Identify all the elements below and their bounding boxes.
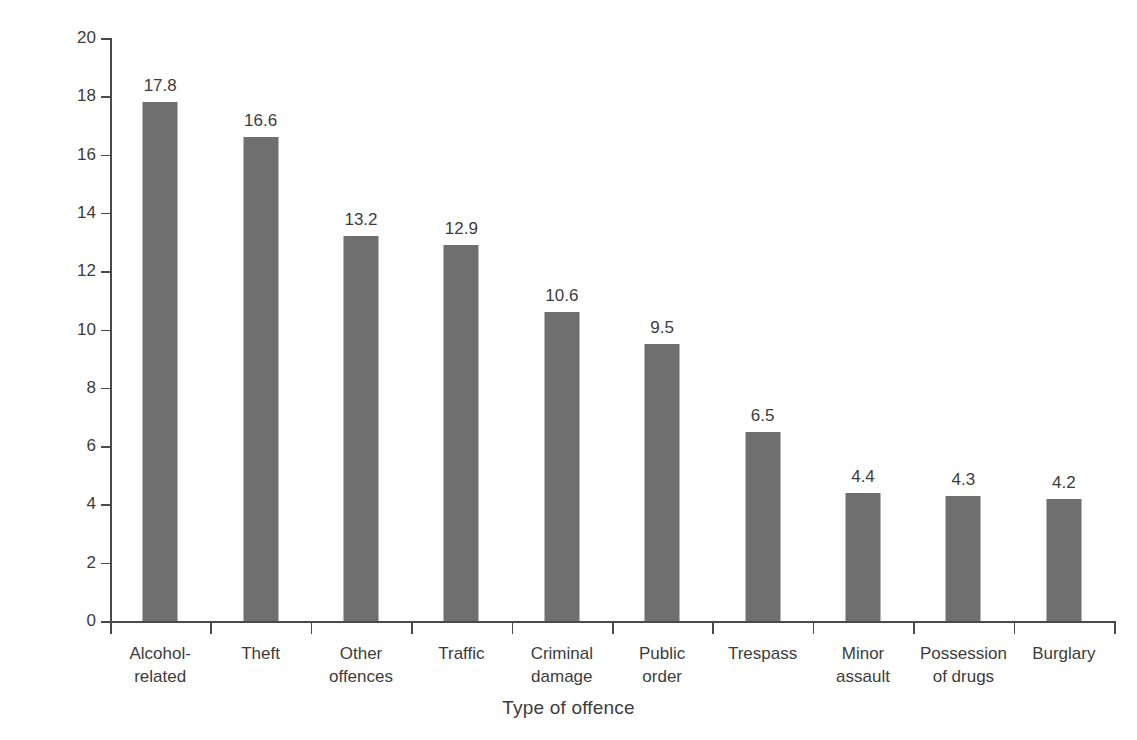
x-axis-tick: [1114, 621, 1116, 634]
bar-value-label: 12.9: [445, 219, 478, 239]
x-axis-tick: [813, 621, 815, 634]
bar-value-label: 9.5: [650, 318, 674, 338]
y-axis-tick: [101, 330, 110, 332]
y-axis-tick-label: 12: [50, 261, 96, 281]
y-axis-tick-label: 2: [50, 553, 96, 573]
x-axis-tick: [1014, 621, 1016, 634]
bar-value-label: 17.8: [144, 76, 177, 96]
x-axis-tick: [311, 621, 313, 634]
bar-value-label: 13.2: [344, 210, 377, 230]
y-axis-tick: [101, 213, 110, 215]
y-axis-tick-label: 16: [50, 145, 96, 165]
y-axis-tick: [101, 621, 110, 623]
x-axis-tick: [411, 621, 413, 634]
y-axis-tick-labels: 02468101214161820: [50, 38, 96, 621]
y-axis-tick: [101, 38, 110, 40]
bar: [846, 493, 881, 621]
bar-value-label: 4.3: [952, 470, 976, 490]
y-axis-title: % of referrals: [0, 0, 40, 740]
x-axis-tick: [512, 621, 514, 634]
y-axis-tick-label: 14: [50, 203, 96, 223]
y-axis-tick: [101, 155, 110, 157]
x-axis-tick: [612, 621, 614, 634]
x-axis-tick: [110, 621, 112, 634]
y-axis-tick-label: 20: [50, 28, 96, 48]
bar: [243, 137, 278, 621]
y-axis-tick: [101, 388, 110, 390]
y-axis-tick-label: 6: [50, 436, 96, 456]
bar: [946, 496, 981, 621]
bar: [1046, 499, 1081, 621]
bar-value-label: 4.2: [1052, 473, 1076, 493]
x-axis-tick: [913, 621, 915, 634]
y-axis-tick: [101, 271, 110, 273]
y-axis-tick: [101, 446, 110, 448]
y-axis-tick-label: 8: [50, 378, 96, 398]
bar-value-label: 6.5: [751, 406, 775, 426]
x-axis-tick: [712, 621, 714, 634]
y-axis-tick: [101, 96, 110, 98]
x-axis-category-label: Burglary: [999, 642, 1129, 665]
y-axis-tick: [101, 504, 110, 506]
bar: [143, 102, 178, 621]
x-axis-title: Type of offence: [0, 697, 1137, 719]
y-axis-tick: [101, 563, 110, 565]
bar-value-label: 4.4: [851, 467, 875, 487]
bar: [645, 344, 680, 621]
bar-value-label: 16.6: [244, 111, 277, 131]
bar: [745, 432, 780, 621]
y-axis-tick-label: 0: [50, 611, 96, 631]
bar: [344, 236, 379, 621]
bar-value-label: 10.6: [545, 286, 578, 306]
y-axis-tick-label: 10: [50, 320, 96, 340]
x-axis-tick: [210, 621, 212, 634]
bar: [544, 312, 579, 621]
y-axis-tick-label: 4: [50, 494, 96, 514]
y-axis-line: [110, 38, 112, 621]
plot-area: 02468101214161820 17.816.613.212.910.69.…: [110, 38, 1114, 621]
bar: [444, 245, 479, 621]
bar-chart: % of referrals 02468101214161820 17.816.…: [0, 0, 1137, 740]
y-axis-tick-label: 18: [50, 86, 96, 106]
